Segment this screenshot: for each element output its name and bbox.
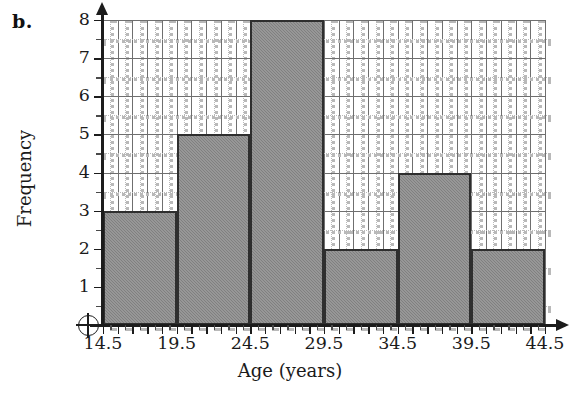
x-tick: [508, 325, 509, 330]
x-tick: [331, 325, 332, 330]
x-tick: [420, 325, 421, 330]
histogram-bar: [177, 134, 251, 325]
y-tick: [94, 20, 103, 21]
origin-circled-plus-icon: [78, 315, 99, 336]
x-tick: [169, 325, 170, 330]
x-tick: [272, 325, 273, 330]
y-tick: [94, 287, 103, 288]
y-tick: [94, 134, 103, 135]
y-tick-label: 7: [64, 47, 90, 67]
x-tick-label: 34.5: [363, 333, 433, 353]
x-tick: [317, 325, 318, 330]
y-tick: [96, 230, 101, 231]
x-axis-title: Age (years): [0, 360, 580, 381]
y-tick-label: 6: [64, 85, 90, 105]
x-tick: [493, 325, 494, 330]
y-axis-title: Frequency: [14, 109, 35, 249]
x-tick: [184, 325, 185, 330]
x-axis-arrow-icon: [556, 319, 569, 331]
y-tick-label: 5: [64, 123, 90, 143]
histogram-bar: [103, 211, 177, 325]
x-tick: [449, 325, 450, 330]
bar-series: [103, 20, 545, 325]
y-tick: [94, 173, 103, 174]
x-tick: [479, 325, 480, 330]
y-tick: [94, 96, 103, 97]
x-tick: [140, 325, 141, 330]
x-tick: [228, 325, 229, 330]
panel-letter: b.: [12, 10, 33, 32]
y-tick: [96, 115, 101, 116]
y-tick-label: 8: [64, 9, 90, 29]
x-tick: [435, 325, 436, 330]
x-tick-label: 39.5: [436, 333, 506, 353]
x-tick: [125, 325, 126, 330]
y-axis-line: [101, 14, 104, 326]
x-tick: [464, 325, 465, 330]
x-tick: [110, 325, 111, 330]
x-tick: [523, 325, 524, 330]
y-tick-label: 3: [64, 200, 90, 220]
y-tick: [94, 211, 103, 212]
x-tick: [214, 325, 215, 330]
y-tick: [96, 192, 101, 193]
y-tick-label: 1: [64, 276, 90, 296]
x-tick: [376, 325, 377, 330]
x-tick-label: 29.5: [289, 333, 359, 353]
y-tick: [94, 249, 103, 250]
x-tick-label: 24.5: [215, 333, 285, 353]
x-tick: [199, 325, 200, 330]
x-tick: [302, 325, 303, 330]
histogram-bar: [398, 173, 472, 326]
histogram-bar: [324, 249, 398, 325]
y-axis-arrow-icon: [96, 2, 108, 15]
x-tick: [243, 325, 244, 330]
x-tick-label: 19.5: [142, 333, 212, 353]
plot-area: [103, 20, 545, 325]
histogram-figure: b. 14.519.524.529.534.539.544.5 12345678…: [0, 0, 580, 395]
y-tick: [96, 306, 101, 307]
y-tick: [94, 58, 103, 59]
x-tick: [155, 325, 156, 330]
x-tick: [346, 325, 347, 330]
x-tick: [390, 325, 391, 330]
histogram-bar: [250, 20, 324, 325]
x-tick: [405, 325, 406, 330]
y-tick: [96, 268, 101, 269]
y-tick: [96, 77, 101, 78]
y-tick: [96, 153, 101, 154]
histogram-bar: [471, 249, 545, 325]
x-tick-label: 44.5: [510, 333, 580, 353]
x-tick: [258, 325, 259, 330]
x-tick: [538, 325, 539, 330]
gridline-vertical: [545, 20, 546, 325]
y-tick-label: 4: [64, 162, 90, 182]
x-tick: [361, 325, 362, 330]
x-tick: [287, 325, 288, 330]
y-tick-label: 2: [64, 238, 90, 258]
y-tick: [96, 39, 101, 40]
